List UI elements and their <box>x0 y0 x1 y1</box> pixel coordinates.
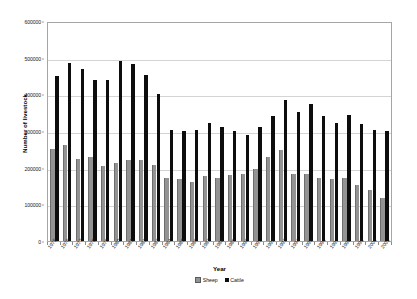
x-axis-label-cell: 1985 <box>175 245 188 265</box>
bar-cattle <box>258 127 261 241</box>
bar-cattle <box>55 76 58 241</box>
y-axis-tick <box>42 242 44 243</box>
bar-group <box>366 23 379 241</box>
x-axis-label-cell: 1983 <box>149 245 162 265</box>
bar-sheep <box>50 149 54 241</box>
bar-sheep <box>228 175 232 241</box>
legend-item-sheep[interactable]: Sheep <box>195 277 218 283</box>
bar-cattle <box>385 131 388 241</box>
y-axis-tick <box>42 58 44 59</box>
bar-sheep <box>152 165 156 241</box>
x-axis-label-cell: 1995 <box>303 245 316 265</box>
bar-cattle <box>106 80 109 241</box>
bar-sheep <box>317 178 321 241</box>
bar-sheep <box>291 174 295 241</box>
x-axis-tick-labels: 1975197619771978197919801981198219831984… <box>47 245 392 265</box>
legend-swatch-cattle-icon <box>225 278 229 282</box>
y-axis-tick <box>42 95 44 96</box>
bar-sheep <box>190 182 194 241</box>
x-axis-label-cell: 1988 <box>213 245 226 265</box>
bar-sheep <box>266 157 270 241</box>
x-axis-label-cell: 1978 <box>85 245 98 265</box>
x-axis-label-cell: 1986 <box>188 245 201 265</box>
bar-cattle <box>246 135 249 241</box>
bar-cattle <box>335 123 338 241</box>
bar-group <box>175 23 188 241</box>
x-axis-label-cell: 1975 <box>47 245 60 265</box>
bar-sheep <box>101 166 105 241</box>
bar-cattle <box>373 130 376 241</box>
bar-group <box>150 23 163 241</box>
bar-cattle <box>157 94 160 241</box>
bar-group <box>200 23 213 241</box>
legend-item-cattle[interactable]: Cattle <box>225 277 244 283</box>
bar-group <box>264 23 277 241</box>
bar-cattle <box>144 75 147 241</box>
x-axis-label-cell: 1994 <box>290 245 303 265</box>
bar-sheep <box>241 174 245 241</box>
bar-cattle <box>182 131 185 241</box>
x-axis-label-cell: 1982 <box>136 245 149 265</box>
bar-group <box>378 23 391 241</box>
x-axis-label-cell: 1977 <box>73 245 86 265</box>
x-axis-title: Year <box>47 265 392 272</box>
bar-group <box>353 23 366 241</box>
bar-sheep <box>63 145 67 241</box>
bar-cattle <box>93 80 96 241</box>
bar-sheep <box>279 150 283 241</box>
y-axis-tick <box>42 22 44 23</box>
bar-cattle <box>322 116 325 241</box>
bar-cattle <box>195 130 198 241</box>
x-axis-label-cell: 1984 <box>162 245 175 265</box>
y-axis-tick-label: 400000 <box>25 92 41 98</box>
bar-sheep <box>177 179 181 241</box>
x-axis-label-cell: 1991 <box>252 245 265 265</box>
livestock-bar-chart: Number of livestock 01000002000003000004… <box>0 0 417 299</box>
bar-cattle <box>131 64 134 241</box>
x-axis-label-cell: 1989 <box>226 245 239 265</box>
bar-sheep <box>355 185 359 241</box>
bar-sheep <box>88 157 92 241</box>
x-axis-label-cell: 1976 <box>60 245 73 265</box>
bar-cattle <box>119 61 122 241</box>
bar-sheep <box>139 160 143 241</box>
bar-group <box>251 23 264 241</box>
x-axis-label-cell: 1999 <box>354 245 367 265</box>
bar-cattle <box>220 127 223 241</box>
bars-layer <box>48 23 391 241</box>
y-axis-tick-labels: 0100000200000300000400000500000600000 <box>0 22 44 242</box>
bar-cattle <box>271 116 274 241</box>
x-axis-label-cell: 2001 <box>379 245 392 265</box>
legend-label: Sheep <box>203 277 218 283</box>
x-axis-label-cell: 1990 <box>239 245 252 265</box>
x-axis-label-cell: 1992 <box>264 245 277 265</box>
bar-group <box>162 23 175 241</box>
bar-group <box>213 23 226 241</box>
bar-group <box>73 23 86 241</box>
bar-group <box>327 23 340 241</box>
x-axis-label-cell: 1979 <box>98 245 111 265</box>
bar-cattle <box>347 115 350 242</box>
bar-group <box>315 23 328 241</box>
bar-group <box>112 23 125 241</box>
bar-sheep <box>368 190 372 241</box>
bar-cattle <box>68 63 71 241</box>
y-axis-tick-label: 0 <box>38 239 41 245</box>
legend-label: Cattle <box>230 277 244 283</box>
bar-group <box>99 23 112 241</box>
bar-cattle <box>284 100 287 241</box>
bar-group <box>340 23 353 241</box>
bar-group <box>48 23 61 241</box>
y-axis-tick-label: 300000 <box>25 129 41 135</box>
bar-sheep <box>126 160 130 241</box>
legend-swatch-sheep-icon <box>195 277 201 283</box>
y-axis-tick-label: 600000 <box>25 19 41 25</box>
x-axis-label-cell: 2000 <box>367 245 380 265</box>
y-axis-tick <box>42 205 44 206</box>
x-axis-label-cell: 1980 <box>111 245 124 265</box>
bar-group <box>239 23 252 241</box>
bar-group <box>188 23 201 241</box>
y-axis-tick-label: 500000 <box>25 56 41 62</box>
bar-cattle <box>297 112 300 241</box>
chart-legend: SheepCattle <box>47 277 392 283</box>
